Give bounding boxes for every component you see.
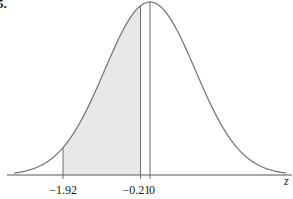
normal-curve-figure: 5. −1.92 −0.21 0 z xyxy=(0,0,293,199)
tick-label-neg-1-92: −1.92 xyxy=(49,183,77,198)
axis-label-z: z xyxy=(284,174,289,189)
tick-label-neg-0-21: −0.21 xyxy=(123,183,151,198)
shaded-area xyxy=(63,6,140,175)
normal-curve-plot xyxy=(0,0,293,199)
tick-label-zero: 0 xyxy=(149,183,155,198)
